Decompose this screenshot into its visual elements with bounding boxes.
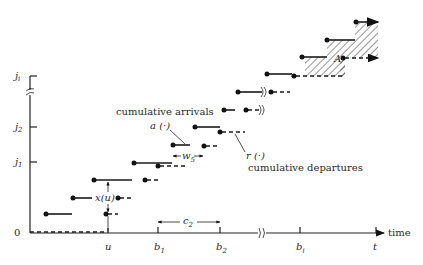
x-label-u: u <box>105 241 111 252</box>
queue-length-label: x(u) <box>95 192 115 203</box>
y-label-ji: ji <box>13 70 20 83</box>
y-label-0: 0 <box>14 227 20 238</box>
arrivals-function-label: a (·) <box>150 120 170 131</box>
arrivals-pointer <box>170 130 185 144</box>
y-label-j2: j2 <box>13 121 23 134</box>
y-axis <box>26 76 37 233</box>
cumulative-departures-label: cumulative departures <box>248 162 363 173</box>
x-axis-title: time <box>388 227 411 238</box>
area-label: A <box>333 53 341 64</box>
departures-steps <box>104 56 379 217</box>
departures-function-label: r (·) <box>246 150 265 161</box>
wait-time-label: w5 <box>182 150 196 164</box>
x-label-bi: bi <box>296 241 305 255</box>
x-label-t: t <box>373 241 378 252</box>
cycle-label: c2 <box>183 215 194 229</box>
y-label-j1: j1 <box>13 156 23 169</box>
cumulative-arrivals-label: cumulative arrivals <box>116 106 214 117</box>
area-a-hatched <box>288 23 378 77</box>
queue-cumulative-diagram: 0 j1 j2 ji time u b1 b2 bi t <box>0 0 423 265</box>
departures-pointer <box>235 134 245 152</box>
x-label-b2: b2 <box>216 241 227 255</box>
x-axis <box>30 227 384 238</box>
x-label-b1: b1 <box>154 241 165 255</box>
